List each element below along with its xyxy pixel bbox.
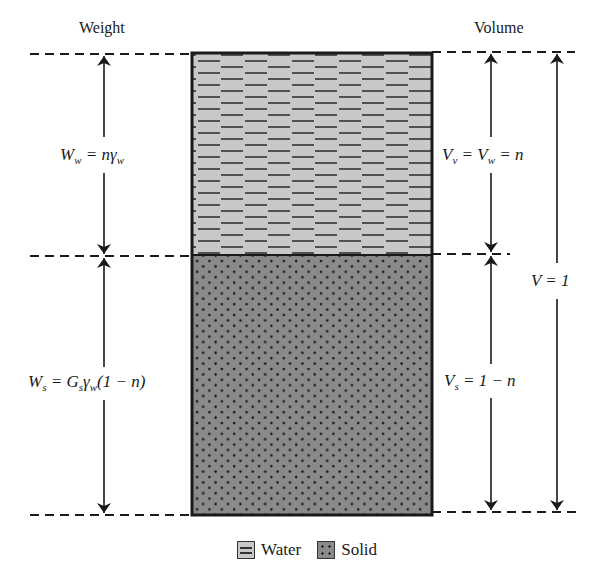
phase-diagram (0, 0, 615, 581)
volume-solid-label: Vs = 1 − n (444, 371, 516, 396)
ws-symbol: W (28, 372, 42, 391)
vv-symbol: V (442, 145, 452, 164)
solid-block (192, 255, 432, 515)
ww-expr: = nγ (82, 145, 117, 164)
legend-solid: Solid (317, 540, 377, 560)
volume-voids-label: Vv = Vw = n (442, 145, 523, 170)
solid-swatch-icon (317, 541, 335, 559)
volume-total-label: V = 1 (531, 271, 570, 291)
legend-solid-label: Solid (341, 540, 377, 560)
vv-rest: = n (495, 145, 523, 164)
ws-expr-gamma-sub: w (90, 381, 97, 393)
ww-sub: w (74, 154, 81, 166)
vv-mid-sub: w (488, 154, 495, 166)
water-swatch-icon (237, 541, 255, 559)
ww-expr-sub: w (117, 154, 124, 166)
ww-symbol: W (60, 145, 74, 164)
legend: Water Solid (237, 540, 393, 560)
vs-rest: = 1 − n (459, 371, 516, 390)
legend-water-label: Water (261, 540, 301, 560)
legend-water: Water (237, 540, 301, 560)
volume-header: Volume (474, 19, 523, 37)
ws-expr-gamma: γ (83, 372, 90, 391)
water-block (192, 53, 432, 255)
weight-solid-label: Ws = Gsγw(1 − n) (28, 372, 145, 397)
ws-expr-tail: (1 − n) (97, 372, 145, 391)
weight-header: Weight (79, 19, 125, 37)
ws-expr-g: = G (46, 372, 78, 391)
weight-water-label: Ww = nγw (60, 145, 124, 170)
vv-mid: = V (457, 145, 487, 164)
vs-symbol: V (444, 371, 454, 390)
